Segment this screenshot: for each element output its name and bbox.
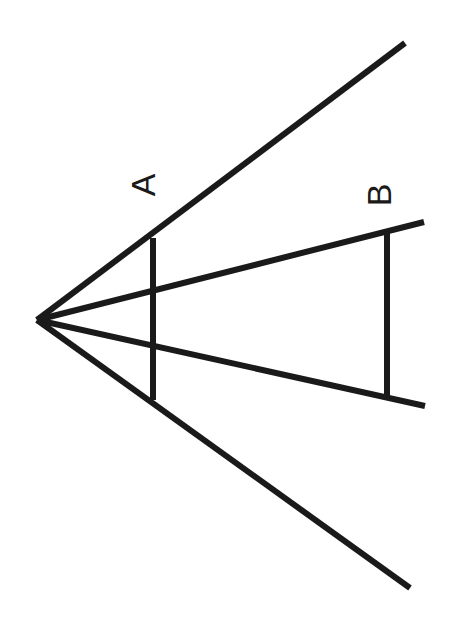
label-b: B (362, 184, 396, 207)
ray-inner-top (37, 222, 424, 320)
ray-outer-top (37, 43, 405, 320)
figure-canvas (0, 0, 460, 631)
label-a: A (126, 174, 160, 197)
